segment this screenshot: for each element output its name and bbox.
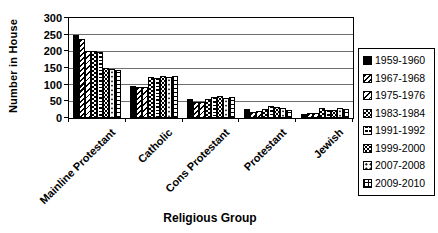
legend-label: 2009-2010 <box>375 177 425 190</box>
x-tick-mark <box>125 118 126 122</box>
legend-swatch-icon <box>363 74 372 83</box>
y-tick-mark <box>64 100 68 101</box>
x-category-label: Cons Protestant <box>163 126 232 195</box>
y-tick-label: 50 <box>32 96 62 106</box>
y-tick-label: 250 <box>32 30 62 40</box>
gridline <box>69 34 353 35</box>
bar-2009-2010-mainline-protestant <box>115 70 121 118</box>
y-tick-mark <box>64 84 68 85</box>
x-tick-mark <box>295 118 296 122</box>
legend-item: 2007-2008 <box>363 159 430 172</box>
y-axis-title: Number in House <box>7 16 19 116</box>
x-tick-mark <box>68 118 69 122</box>
x-category-label: Mainline Protestant <box>38 126 118 206</box>
y-tick-label: 300 <box>32 13 62 23</box>
legend-swatch-icon <box>363 91 372 100</box>
bar-chart: Number in House 050100150200250300 Mainl… <box>0 0 438 233</box>
x-category-label: Protestant <box>241 126 288 173</box>
legend-item: 1975-1976 <box>363 89 430 102</box>
y-tick-mark <box>64 50 68 51</box>
legend-swatch-icon <box>363 179 372 188</box>
gridline <box>69 51 353 52</box>
y-tick-label: 100 <box>32 80 62 90</box>
legend-item: 2009-2010 <box>363 177 430 190</box>
y-tick-mark <box>64 17 68 18</box>
y-tick-mark <box>64 34 68 35</box>
legend-item: 1967-1968 <box>363 72 430 85</box>
legend-swatch-icon <box>363 161 372 170</box>
legend-item: 1959-1960 <box>363 54 430 67</box>
gridline <box>69 68 353 69</box>
bar-2009-2010-jewish <box>343 109 349 118</box>
y-tick-label: 150 <box>32 63 62 73</box>
x-tick-mark <box>352 118 353 122</box>
x-category-label: Jewish <box>311 126 345 160</box>
y-tick-label: 200 <box>32 46 62 56</box>
legend-item: 1983-1984 <box>363 107 430 120</box>
bar-2009-2010-catholic <box>172 76 178 118</box>
legend-label: 1967-1968 <box>375 72 425 85</box>
bar-2009-2010-cons-protestant <box>229 97 235 118</box>
x-axis-title: Religious Group <box>68 211 352 225</box>
x-tick-mark <box>238 118 239 122</box>
bar-2009-2010-protestant <box>286 110 292 118</box>
legend-label: 1975-1976 <box>375 89 425 102</box>
x-tick-mark <box>182 118 183 122</box>
x-category-label: Catholic <box>135 126 174 165</box>
legend-item: 1999-2000 <box>363 142 430 155</box>
legend-swatch-icon <box>363 144 372 153</box>
legend-label: 1991-1992 <box>375 124 425 137</box>
legend: 1959-19601967-19681975-19761983-19841991… <box>358 48 435 196</box>
legend-label: 1959-1960 <box>375 54 425 67</box>
y-tick-mark <box>64 67 68 68</box>
plot-area <box>68 17 354 119</box>
legend-label: 1983-1984 <box>375 107 425 120</box>
legend-label: 2007-2008 <box>375 159 425 172</box>
legend-swatch-icon <box>363 56 372 65</box>
y-tick-label: 0 <box>32 113 62 123</box>
legend-swatch-icon <box>363 126 372 135</box>
legend-swatch-icon <box>363 109 372 118</box>
legend-item: 1991-1992 <box>363 124 430 137</box>
legend-label: 1999-2000 <box>375 142 425 155</box>
